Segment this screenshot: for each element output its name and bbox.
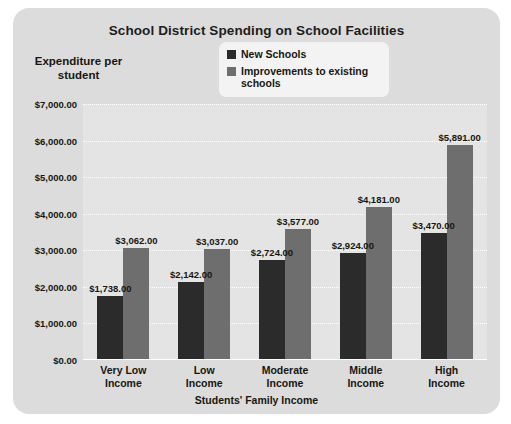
gridline: [83, 177, 487, 179]
legend-swatch-improvements: [227, 67, 236, 76]
category-label-line2: Income: [105, 377, 142, 389]
x-axis-category-label: ModerateIncome: [240, 364, 330, 389]
bar-value-label: $3,577.00: [277, 216, 319, 227]
bar-improvements[interactable]: [123, 248, 149, 360]
y-axis-tick-label: $0.00: [13, 355, 77, 366]
gridline: [83, 141, 487, 143]
axis-baseline: [83, 359, 487, 360]
category-label-line1: Very Low: [100, 364, 146, 376]
y-axis-title-line1: Expenditure per: [35, 55, 123, 67]
bar-value-label: $2,142.00: [170, 269, 212, 280]
bar-improvements[interactable]: [447, 145, 473, 360]
bar-new-schools[interactable]: [421, 233, 447, 360]
legend-swatch-new-schools: [227, 50, 236, 59]
y-axis-tick-label: $2,000.00: [13, 281, 77, 292]
y-axis-title: Expenditure per student: [16, 54, 141, 82]
y-axis-tick-label: $1,000.00: [13, 318, 77, 329]
chart-panel: School District Spending on School Facil…: [13, 8, 500, 414]
bar-value-label: $3,062.00: [115, 235, 157, 246]
y-axis-tick-label: $5,000.00: [13, 172, 77, 183]
category-label-line1: Low: [194, 364, 215, 376]
category-label-line2: Income: [428, 377, 465, 389]
y-axis-tick-label: $3,000.00: [13, 245, 77, 256]
category-label-line2: Income: [186, 377, 223, 389]
x-axis-category-label: Very LowIncome: [78, 364, 168, 389]
bar-value-label: $3,037.00: [196, 236, 238, 247]
y-axis-tick-label: $4,000.00: [13, 208, 77, 219]
category-label-line1: Middle: [349, 364, 382, 376]
legend-label-improvements: Improvements to existing schools: [241, 65, 381, 90]
gridline: [83, 104, 487, 106]
y-axis-tick-label: $6,000.00: [13, 135, 77, 146]
bar-improvements[interactable]: [366, 207, 392, 360]
plot-area: [83, 104, 487, 360]
bar-value-label: $3,470.00: [412, 220, 454, 231]
y-axis-tick-label: $7,000.00: [13, 99, 77, 110]
category-label-line1: High: [435, 364, 458, 376]
bar-value-label: $1,738.00: [89, 283, 131, 294]
chart-legend: New Schools Improvements to existing sch…: [219, 42, 389, 97]
bar-improvements[interactable]: [204, 249, 230, 360]
category-label-line2: Income: [267, 377, 304, 389]
bar-value-label: $2,924.00: [332, 240, 374, 251]
chart-title: School District Spending on School Facil…: [13, 23, 500, 38]
x-axis-category-label: HighIncome: [402, 364, 492, 389]
x-axis-title: Students' Family Income: [13, 394, 500, 406]
category-label-line1: Moderate: [262, 364, 309, 376]
legend-item-improvements[interactable]: Improvements to existing schools: [227, 65, 381, 90]
bar-new-schools[interactable]: [340, 253, 366, 360]
y-axis-title-line2: student: [58, 69, 100, 81]
bar-new-schools[interactable]: [259, 260, 285, 360]
x-axis-category-label: MiddleIncome: [321, 364, 411, 389]
category-label-line2: Income: [347, 377, 384, 389]
legend-item-new-schools[interactable]: New Schools: [227, 48, 381, 61]
bar-new-schools[interactable]: [97, 296, 123, 360]
bar-value-label: $4,181.00: [358, 194, 400, 205]
x-axis-category-label: LowIncome: [159, 364, 249, 389]
bar-value-label: $2,724.00: [251, 247, 293, 258]
bar-value-label: $5,891.00: [438, 132, 480, 143]
bar-new-schools[interactable]: [178, 282, 204, 360]
legend-label-new-schools: New Schools: [241, 48, 306, 61]
